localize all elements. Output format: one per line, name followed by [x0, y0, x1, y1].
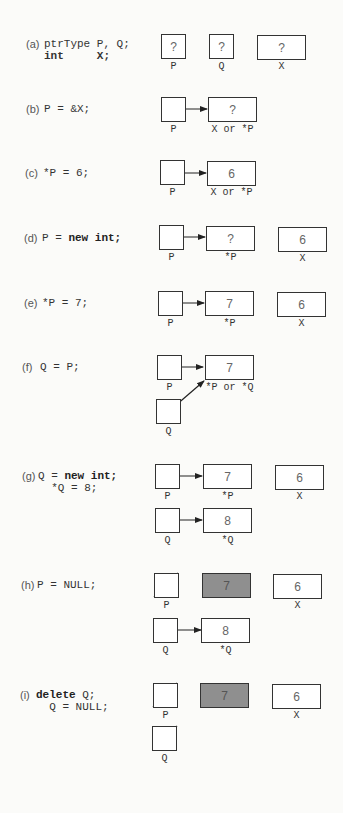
step-f-tag: (f): [22, 361, 32, 373]
step-f-code: Q = P;: [40, 361, 80, 373]
label-q: Q: [153, 645, 178, 656]
label-q: Q: [155, 535, 180, 546]
pointer-box-q: ?: [209, 34, 234, 59]
int-box-x: 6: [272, 684, 321, 709]
step-c-code: *P = 6;: [43, 167, 89, 179]
pointer-box-p: [159, 225, 184, 250]
label-p: P: [158, 318, 183, 329]
label-deref-p-or-q: *P or *Q: [199, 382, 260, 393]
label-q: Q: [156, 426, 181, 437]
label-p: P: [153, 710, 178, 721]
step-e-code: *P = 7;: [42, 297, 88, 309]
null-pointer-box-q: [152, 726, 177, 751]
label-x: X: [275, 491, 324, 502]
label-deref-p: *P: [206, 252, 255, 263]
label-p: P: [160, 187, 185, 198]
label-x-or-deref-p: X or *P: [204, 124, 261, 135]
label-q: Q: [209, 61, 234, 72]
step-e-tag: (e): [24, 297, 37, 309]
label-p: P: [159, 252, 184, 263]
step-a-code-line1: ptrType P, Q;: [44, 38, 130, 50]
step-g-code-line2: *Q = 8;: [38, 482, 97, 494]
label-x: X: [277, 318, 326, 329]
label-x: X: [257, 61, 306, 72]
label-deref-q: *Q: [203, 535, 252, 546]
int-box-x: 6: [207, 161, 256, 186]
int-box-x: 6: [275, 465, 324, 490]
int-box-x: ?: [208, 97, 257, 122]
label-x: X: [272, 710, 321, 721]
pointer-box-p: [157, 355, 182, 380]
null-pointer-box-p: [153, 683, 178, 708]
step-c-tag: (c): [25, 167, 38, 179]
inaccessible-heap-box: 7: [200, 683, 249, 708]
step-b-tag: (b): [26, 103, 39, 115]
pointer-box-p: [158, 291, 183, 316]
label-x: X: [273, 600, 322, 611]
step-a-code-line2: int X;: [44, 50, 110, 62]
step-i-tag: (i): [20, 689, 30, 701]
keyword-new-int: new int;: [68, 232, 121, 244]
step-d-tag: (d): [24, 232, 37, 244]
step-h-tag: (h): [21, 579, 34, 591]
int-box-x: 6: [278, 227, 327, 252]
pointer-box-q: [156, 399, 181, 424]
keyword-delete: delete: [36, 689, 76, 701]
heap-box: ?: [206, 226, 255, 251]
label-deref-p: *P: [205, 318, 254, 329]
heap-box-2: 8: [201, 618, 250, 643]
heap-box-2: 8: [203, 508, 252, 533]
label-x-or-deref-p: X or *P: [203, 187, 260, 198]
heap-box: 7: [205, 355, 254, 380]
keyword-new-int: new int;: [64, 470, 117, 482]
int-box-x: 6: [277, 292, 326, 317]
int-box-x: ?: [257, 35, 306, 60]
pointer-box-p: [161, 97, 186, 122]
label-p: P: [161, 61, 186, 72]
step-g-code-line1: Q = new int;: [38, 470, 117, 482]
inaccessible-heap-box: 7: [202, 573, 251, 598]
pointer-box-p: [160, 160, 185, 185]
heap-box: 7: [205, 291, 254, 316]
step-h-code: P = NULL;: [37, 579, 96, 591]
pointer-box-q: [153, 618, 178, 643]
label-deref-p: *P: [203, 491, 252, 502]
step-i-code-line1: delete Q;: [36, 689, 95, 701]
step-d-code: P = new int;: [42, 232, 121, 244]
pointer-box-p: [155, 464, 180, 489]
step-b-code: P = &X;: [44, 103, 90, 115]
label-p: P: [161, 124, 186, 135]
label-q: Q: [152, 753, 177, 764]
label-p: P: [157, 382, 182, 393]
label-deref-q: *Q: [201, 645, 250, 656]
label-x: X: [278, 253, 327, 264]
label-p: P: [155, 491, 180, 502]
step-i-code-line2: Q = NULL;: [36, 701, 109, 713]
int-box-x: 6: [273, 574, 322, 599]
pointer-box-p: ?: [161, 34, 186, 59]
pointer-box-q: [155, 508, 180, 533]
step-a-tag: (a): [26, 38, 39, 50]
heap-box-1: 7: [203, 464, 252, 489]
null-pointer-box-p: [154, 573, 179, 598]
step-g-tag: (g): [22, 470, 35, 482]
label-p: P: [154, 600, 179, 611]
